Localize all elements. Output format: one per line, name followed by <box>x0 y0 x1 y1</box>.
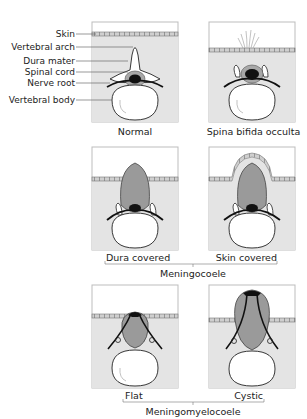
label-vertebral-arch: Vertebral arch <box>11 42 75 52</box>
vertebral-body <box>112 85 158 120</box>
caption-skin-covered: Skin covered <box>216 252 277 263</box>
panel-occulta <box>209 22 295 122</box>
caption-flat: Flat <box>125 390 143 401</box>
label-dura-mater: Dura mater <box>23 56 75 66</box>
caption-dura-covered: Dura covered <box>106 252 170 263</box>
caption-cystic: Cystic <box>234 390 263 401</box>
label-spinal-cord: Spinal cord <box>25 67 75 77</box>
label-skin: Skin <box>56 29 75 39</box>
caption-occulta: Spina bifida occulta <box>200 126 307 137</box>
panel-flat <box>92 285 178 388</box>
panel-skin-covered <box>209 147 295 250</box>
label-vertebral-body: Vertebral body <box>9 95 75 105</box>
panel-dura-covered <box>92 147 178 250</box>
label-nerve-root: Nerve root <box>27 78 75 88</box>
panel-cystic <box>209 285 295 388</box>
group-meningocoele: Meningocoele <box>144 268 242 279</box>
spinal-cord <box>129 75 141 84</box>
caption-normal: Normal <box>92 126 178 137</box>
skin-layer <box>92 32 178 36</box>
group-meningomyelocoele: Meningomyelocoele <box>134 406 252 417</box>
